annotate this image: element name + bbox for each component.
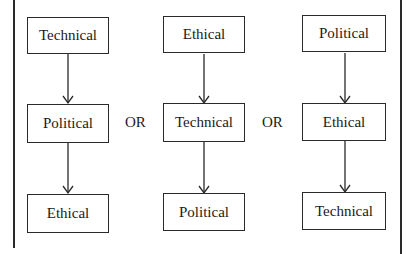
c2-step1-ethical-box: Ethical: [163, 16, 245, 53]
box-label: Technical: [175, 114, 233, 131]
box-label: Technical: [315, 203, 373, 220]
box-label: Ethical: [183, 26, 225, 43]
c2-step2-technical-box: Technical: [163, 103, 245, 142]
c3-step2-ethical-box: Ethical: [302, 103, 386, 141]
or-separator-2: OR: [262, 114, 283, 131]
c3-step1-political-box: Political: [302, 15, 386, 52]
box-label: Ethical: [47, 205, 89, 222]
c3-step3-technical-box: Technical: [302, 192, 386, 230]
box-label: Political: [319, 25, 369, 42]
box-label: Political: [43, 115, 93, 132]
or-separator-1: OR: [125, 114, 146, 131]
c1-step2-political-box: Political: [27, 104, 109, 143]
box-label: Political: [179, 204, 229, 221]
box-label: Ethical: [323, 114, 365, 131]
c2-step3-political-box: Political: [163, 193, 245, 231]
box-label: Technical: [39, 27, 97, 44]
c1-step3-ethical-box: Ethical: [27, 194, 109, 233]
c1-step1-technical-box: Technical: [27, 17, 109, 54]
